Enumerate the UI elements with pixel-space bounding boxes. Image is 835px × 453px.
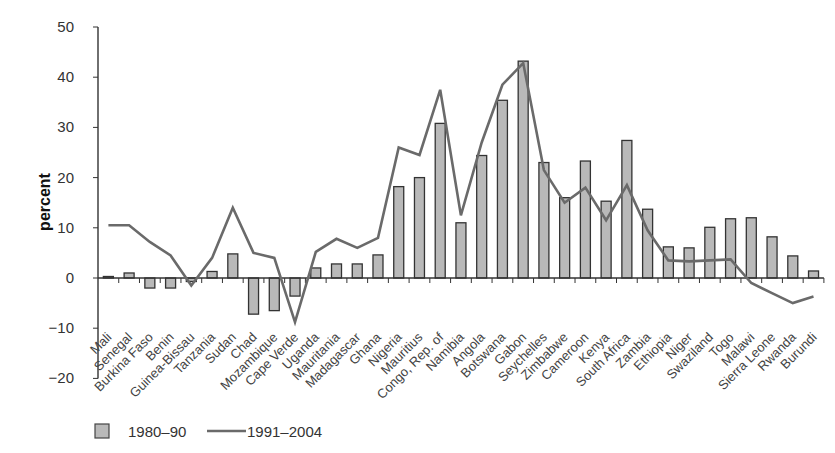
bar (414, 178, 424, 278)
bar (477, 156, 487, 278)
bar (332, 264, 342, 278)
bar (207, 271, 217, 278)
bar (435, 123, 445, 278)
bar (767, 237, 777, 278)
bar (373, 255, 383, 278)
bar (290, 278, 300, 296)
y-tick-label: 20 (57, 169, 74, 186)
bar (145, 278, 155, 288)
bar (228, 254, 238, 278)
bar (497, 100, 507, 278)
legend-bar-swatch (95, 424, 109, 438)
y-axis-title: percent (36, 172, 53, 230)
y-axis-label: percent (36, 172, 53, 230)
axes (98, 27, 824, 378)
bar (539, 163, 549, 278)
y-tick-label: 10 (57, 219, 74, 236)
bar (622, 140, 632, 278)
bar (560, 198, 570, 278)
legend: 1980–90 1991–2004 (95, 423, 322, 440)
bar (580, 161, 590, 278)
bar (788, 256, 798, 278)
bar (746, 218, 756, 278)
y-tick-label: 40 (57, 68, 74, 85)
bar-series-1980-90 (103, 61, 818, 314)
bar (456, 223, 466, 278)
y-tick-label: 50 (57, 18, 74, 35)
chart: percent −20−1001020304050 MaliSenegalBur… (0, 0, 835, 453)
legend-label-1991-2004: 1991–2004 (247, 423, 322, 440)
bar (663, 247, 673, 278)
bar (726, 219, 736, 278)
bar (705, 227, 715, 278)
line-series-1991-2004 (108, 63, 813, 322)
bar (311, 268, 321, 278)
bar (269, 278, 279, 311)
y-tick-label: 30 (57, 118, 74, 135)
y-tick-label: −10 (49, 319, 74, 336)
bar (394, 187, 404, 278)
bar (684, 248, 694, 278)
bar (166, 278, 176, 288)
bar (249, 278, 259, 314)
legend-label-1980-90: 1980–90 (128, 423, 186, 440)
y-tick-label: −20 (49, 369, 74, 386)
bar (809, 271, 819, 278)
bar (352, 264, 362, 278)
x-axis-category-labels: MaliSenegalBurkina FasoBeninGuinea-Bissa… (87, 329, 820, 402)
line-path (108, 63, 813, 322)
bar (124, 273, 134, 278)
y-axis-ticks: −20−1001020304050 (49, 18, 98, 386)
y-tick-label: 0 (66, 269, 74, 286)
bar (518, 61, 528, 278)
bar (643, 209, 653, 278)
